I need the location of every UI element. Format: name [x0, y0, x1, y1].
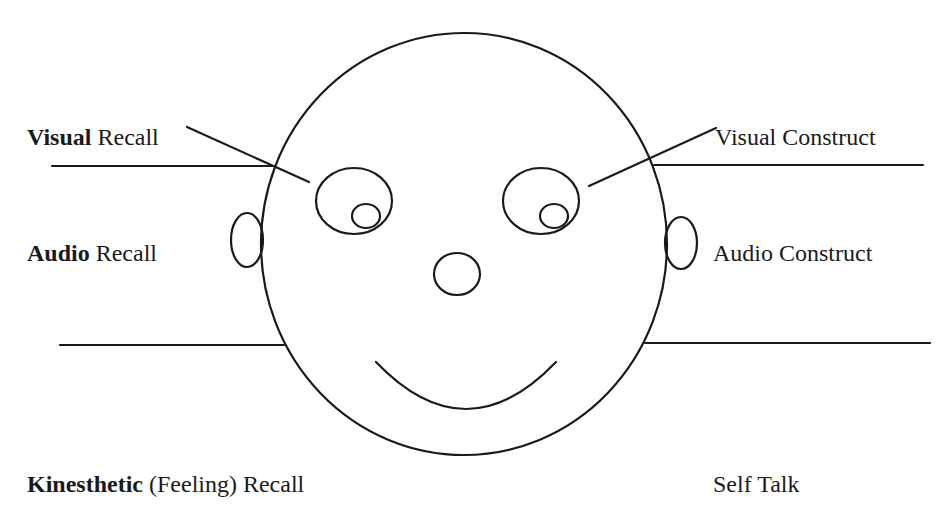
- audio-construct-label: Audio Construct: [713, 241, 872, 265]
- head-outline: [261, 33, 667, 455]
- right-eye: [503, 168, 579, 234]
- audio-recall-label-bold: Audio: [27, 240, 90, 266]
- visual-construct-label-rest: Visual Construct: [715, 124, 876, 150]
- self-talk-label-rest: Self Talk: [713, 471, 800, 497]
- kinesthetic-recall-label-rest: (Feeling) Recall: [143, 471, 304, 497]
- audio-construct-label-rest: Audio Construct: [713, 240, 872, 266]
- kinesthetic-recall-label: Kinesthetic (Feeling) Recall: [27, 472, 304, 496]
- eye-accessing-cues-diagram: Visual Recall Visual Construct Audio Rec…: [0, 0, 948, 521]
- visual-recall-label-rest: Recall: [91, 124, 158, 150]
- audio-recall-label-rest: Recall: [90, 240, 157, 266]
- right-ear: [665, 217, 697, 269]
- left-eye: [316, 168, 392, 234]
- self-talk-label: Self Talk: [713, 472, 800, 496]
- left-ear: [231, 213, 263, 267]
- audio-recall-label: Audio Recall: [27, 241, 157, 265]
- left-pupil: [352, 204, 380, 228]
- visual-construct-pointer-line: [589, 128, 716, 186]
- mouth-smile: [376, 362, 556, 409]
- visual-recall-label: Visual Recall: [27, 125, 159, 149]
- right-pupil: [540, 204, 568, 228]
- visual-recall-label-bold: Visual: [27, 124, 91, 150]
- nose: [434, 253, 480, 295]
- visual-construct-label: Visual Construct: [715, 125, 876, 149]
- kinesthetic-recall-label-bold: Kinesthetic: [27, 471, 143, 497]
